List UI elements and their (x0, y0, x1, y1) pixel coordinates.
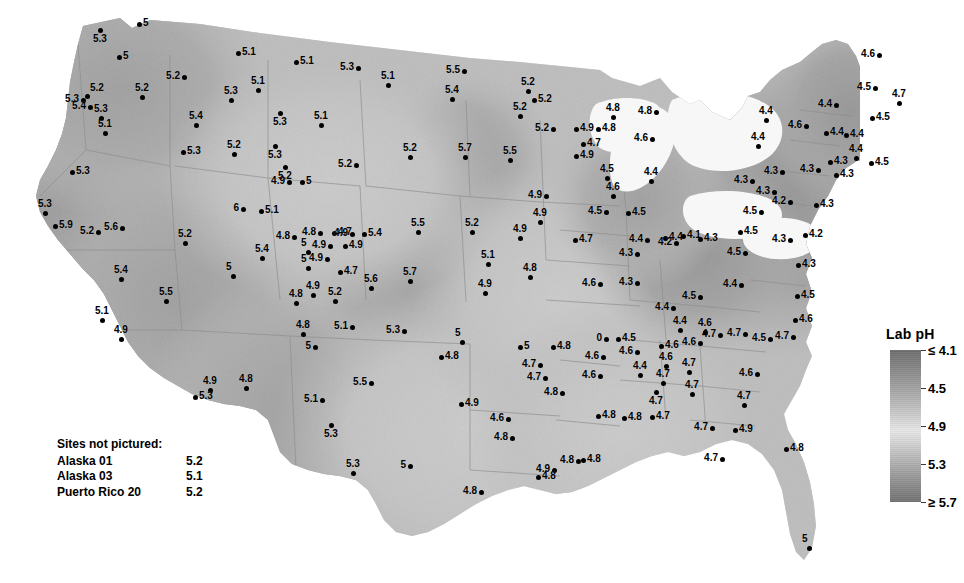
site-value-label: 4.8 (296, 320, 310, 330)
site-dot (834, 103, 839, 108)
legend-tick-label: 4.5 (928, 382, 946, 395)
site-dot (755, 372, 760, 377)
site-dot (508, 158, 513, 163)
site-dot (119, 277, 124, 282)
site-dot (292, 235, 297, 240)
site-value-label: 4.7 (682, 358, 696, 368)
site-dot (877, 53, 882, 58)
site-dot (100, 318, 105, 323)
site-dot (538, 220, 543, 225)
site-dot (181, 150, 186, 155)
site-value-label: 5.2 (535, 123, 549, 133)
site-dot (140, 95, 145, 100)
site-dot (439, 355, 444, 360)
site-value-label: 4.3 (704, 233, 718, 243)
site-value-label: 4.8 (606, 103, 620, 113)
site-dot (574, 154, 579, 159)
site-dot (869, 161, 874, 166)
site-value-label: 5.1 (95, 306, 109, 316)
site-value-label: 5.2 (227, 140, 241, 150)
site-value-label: 4.6 (634, 133, 648, 143)
legend-colorbar (890, 350, 921, 502)
site-dot (543, 376, 548, 381)
site-dot (463, 155, 468, 160)
site-dot (698, 341, 703, 346)
site-value-label: 4.9 (465, 398, 479, 408)
site-dot (635, 281, 640, 286)
site-value-label: 4.7 (685, 380, 699, 390)
site-dot (350, 232, 355, 237)
site-value-label: 4.7 (579, 234, 593, 244)
site-value-label: 5.7 (458, 143, 472, 153)
site-dot (733, 428, 738, 433)
site-value-label: 4.5 (682, 291, 696, 301)
site-dot (479, 490, 484, 495)
site-dot (328, 244, 333, 249)
legend-tick-label: 5.3 (928, 458, 946, 471)
legend-tick-label: ≥ 5.7 (928, 496, 957, 509)
site-dot (194, 123, 199, 128)
site-dot (408, 155, 413, 160)
site-dot (536, 475, 541, 480)
site-value-label: 5.4 (445, 85, 459, 95)
site-value-label: 4.2 (772, 196, 786, 206)
site-value-label: 4.9 (580, 150, 594, 160)
site-value-label: 5.3 (346, 459, 360, 469)
site-dot (182, 75, 187, 80)
site-value-label: 4.4 (818, 99, 832, 109)
site-dot (742, 403, 747, 408)
site-dot (710, 426, 715, 431)
site-dot (743, 332, 748, 337)
site-value-label: 4.4 (629, 234, 643, 244)
site-dot (244, 386, 249, 391)
site-value-label: 4.3 (834, 156, 848, 166)
site-value-label: 4.3 (764, 166, 778, 176)
site-value-label: 5.2 (166, 71, 180, 81)
site-dot (854, 156, 859, 161)
site-value-label: 5.5 (446, 65, 460, 75)
site-dot (526, 89, 531, 94)
site-value-label: 4.9 (334, 228, 348, 238)
site-value-label: 4.7 (704, 453, 718, 463)
site-dot (301, 332, 306, 337)
legend-tick-label: 4.9 (928, 420, 946, 433)
site-dot (470, 230, 475, 235)
site-dot (698, 295, 703, 300)
site-dot (654, 390, 659, 395)
sites-not-pictured-row: Alaska 03 5.1 (57, 469, 252, 485)
site-value-label: 4.8 (445, 351, 459, 361)
site-dot (626, 211, 631, 216)
site-dot (232, 152, 237, 157)
site-dot (795, 294, 800, 299)
site-dot (661, 381, 666, 386)
site-value-label: 4.9 (309, 253, 323, 263)
site-dot (362, 232, 367, 237)
site-value-label: 5.3 (340, 62, 354, 72)
site-value-label: 4.8 (523, 263, 537, 273)
site-value-label: 4.5 (876, 112, 890, 122)
site-dot (768, 337, 773, 342)
site-value-label: 4.6 (682, 337, 696, 347)
site-dot (486, 262, 491, 267)
site-dot (659, 344, 664, 349)
site-value-label: 4.8 (628, 412, 642, 422)
site-value-label: 5 (400, 460, 406, 470)
site-value-label: 4.9 (533, 208, 547, 218)
site-value-label: 4.8 (463, 486, 477, 496)
legend-tick (921, 426, 926, 427)
site-dot (791, 335, 796, 340)
site-value-label: 5.2 (538, 94, 552, 104)
site-dot (164, 299, 169, 304)
site-dot (759, 210, 764, 215)
site-dot (784, 447, 789, 452)
site-dot (183, 241, 188, 246)
site-dot (333, 299, 338, 304)
site-dot (294, 60, 299, 65)
site-value-label: 4.6 (861, 49, 875, 59)
site-dot (796, 263, 801, 268)
site-dot (338, 270, 343, 275)
site-value-label: 5.2 (178, 229, 192, 239)
site-value-label: 4.9 (478, 279, 492, 289)
site-value-label: 4.8 (587, 454, 601, 464)
site-dot (259, 209, 264, 214)
